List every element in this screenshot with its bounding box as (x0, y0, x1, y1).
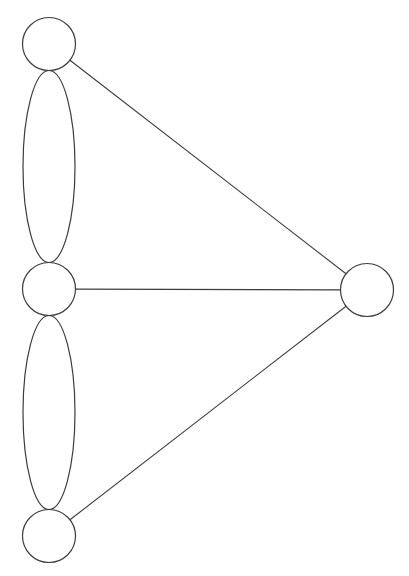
graph-diagram (0, 0, 409, 576)
background (0, 0, 409, 576)
